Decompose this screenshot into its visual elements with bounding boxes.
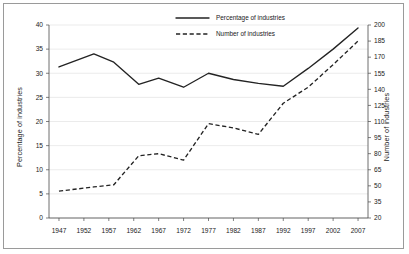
chart-canvas: 0510152025303540 20355065809511012514015…: [4, 4, 405, 250]
svg-text:20: 20: [36, 118, 44, 125]
y-axis-title: Percentage of industries: [15, 87, 24, 167]
x-axis-tick-labels: 1947195219571962196719721977198219871992…: [52, 227, 366, 234]
svg-text:200: 200: [374, 21, 385, 28]
svg-text:1962: 1962: [126, 227, 141, 234]
svg-text:140: 140: [374, 86, 385, 93]
svg-text:95: 95: [374, 134, 382, 141]
y2-axis-tickmarks: [368, 25, 371, 218]
y2-axis-title: Number of industries: [382, 93, 391, 162]
svg-text:35: 35: [36, 45, 44, 52]
svg-text:170: 170: [374, 53, 385, 60]
svg-text:40: 40: [36, 21, 44, 28]
svg-text:80: 80: [374, 150, 382, 157]
svg-text:1972: 1972: [176, 227, 191, 234]
svg-text:10: 10: [36, 166, 44, 173]
svg-text:1992: 1992: [276, 227, 291, 234]
svg-text:155: 155: [374, 70, 385, 77]
svg-text:15: 15: [36, 142, 44, 149]
svg-text:1952: 1952: [77, 227, 92, 234]
svg-text:65: 65: [374, 166, 382, 173]
svg-text:50: 50: [374, 182, 382, 189]
svg-text:1947: 1947: [52, 227, 67, 234]
legend-label-number: Number of industries: [216, 30, 275, 37]
gridlines: [49, 25, 368, 218]
svg-text:2007: 2007: [351, 227, 366, 234]
svg-text:35: 35: [374, 198, 382, 205]
svg-text:0: 0: [39, 214, 43, 221]
series-number-of-industries: [59, 41, 358, 191]
x-axis-tickmarks: [59, 218, 358, 221]
series-percentage-of-industries: [59, 28, 358, 87]
y-axis-tick-labels: 0510152025303540: [36, 21, 44, 221]
line-chart: 0510152025303540 20355065809511012514015…: [4, 4, 405, 250]
svg-text:1987: 1987: [251, 227, 266, 234]
svg-text:1997: 1997: [301, 227, 316, 234]
chart-frame: 0510152025303540 20355065809511012514015…: [3, 3, 404, 249]
legend-label-percentage: Percentage of industries: [216, 14, 285, 22]
svg-text:30: 30: [36, 70, 44, 77]
legend: Percentage of industries Number of indus…: [176, 14, 285, 37]
svg-text:5: 5: [39, 190, 43, 197]
y-axis-tickmarks: [46, 25, 49, 218]
svg-text:20: 20: [374, 214, 382, 221]
svg-text:2002: 2002: [326, 227, 341, 234]
svg-text:1967: 1967: [151, 227, 166, 234]
svg-text:1957: 1957: [101, 227, 116, 234]
svg-text:25: 25: [36, 94, 44, 101]
svg-text:185: 185: [374, 37, 385, 44]
svg-text:1977: 1977: [201, 227, 216, 234]
svg-text:1982: 1982: [226, 227, 241, 234]
